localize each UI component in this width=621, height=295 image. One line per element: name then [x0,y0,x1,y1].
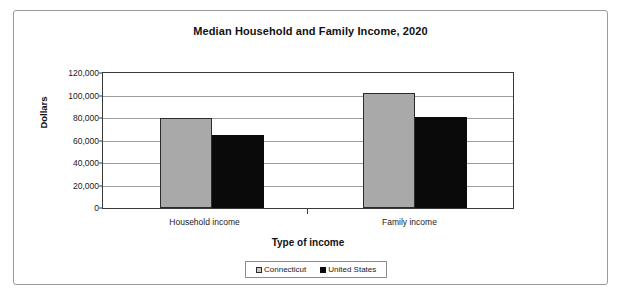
y-axis-tick-label: 80,000 [47,113,99,123]
chart-title: Median Household and Family Income, 2020 [14,25,607,37]
chart-legend: ConnecticutUnited States [245,261,387,278]
legend-swatch-icon [320,267,326,273]
bar-united-states-family-income [415,117,467,208]
gridline [103,96,513,97]
y-axis-label: Dollars [38,78,49,148]
x-axis-tick-label: Family income [307,217,512,227]
bar-connecticut-family-income [363,93,415,208]
y-axis-tick-label: 40,000 [47,158,99,168]
y-axis-tick-label: 100,000 [47,91,99,101]
y-axis-tick-label: 120,000 [47,68,99,78]
bar-united-states-household-income [212,135,264,208]
chart-figure: Median Household and Family Income, 2020… [13,10,608,285]
y-axis-tick-label: 60,000 [47,136,99,146]
legend-entry: Connecticut [256,265,306,274]
bar-connecticut-household-income [160,118,212,208]
x-axis-tick-mark [307,209,308,214]
x-axis-ticks [102,209,514,215]
legend-swatch-icon [256,267,262,273]
plot-area [102,72,514,209]
legend-label: Connecticut [264,265,306,274]
y-axis-tick-labels: 020,00040,00060,00080,000100,000120,000 [44,72,99,209]
x-axis-tick-label: Household income [102,217,307,227]
legend-label: United States [328,265,376,274]
y-axis-tick-label: 20,000 [47,181,99,191]
x-axis-label: Type of income [102,237,514,248]
y-axis-tick-label: 0 [47,203,99,213]
legend-entry: United States [320,265,376,274]
